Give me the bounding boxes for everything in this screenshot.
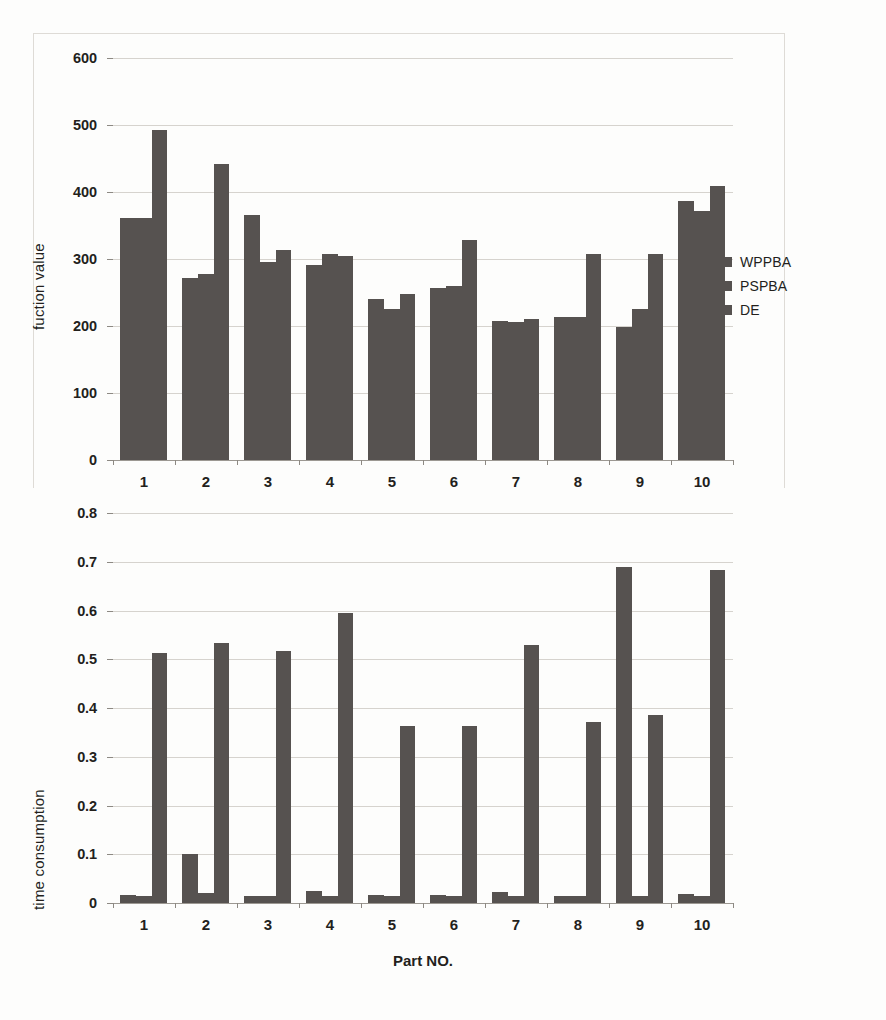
bar [260, 262, 276, 460]
bar [508, 322, 524, 460]
x-tick-label: 4 [305, 916, 355, 933]
gridline [113, 58, 733, 59]
gridline [113, 659, 733, 660]
y-tick-mark [107, 393, 113, 394]
y-tick-label: 500 [45, 117, 97, 133]
y-tick-mark [107, 125, 113, 126]
bar [710, 570, 726, 903]
bar [306, 891, 322, 903]
y-tick-label: 0.6 [45, 603, 97, 619]
bar [198, 893, 214, 903]
x-tick-mark [361, 460, 362, 465]
bar [400, 726, 416, 903]
bar [632, 309, 648, 460]
bar [120, 895, 136, 903]
x-tick-mark [609, 903, 610, 908]
bar [322, 896, 338, 903]
bar [462, 726, 478, 903]
x-tick-mark [733, 903, 734, 908]
gridline [113, 562, 733, 563]
x-tick-mark [609, 460, 610, 465]
x-tick-label: 1 [119, 916, 169, 933]
y-tick-mark [107, 326, 113, 327]
x-axis-title: Part NO. [113, 952, 733, 969]
gridline [113, 854, 733, 855]
x-tick-label: 5 [367, 473, 417, 490]
x-tick-mark [299, 903, 300, 908]
gridline [113, 259, 733, 260]
bar [368, 299, 384, 460]
y-tick-mark [107, 854, 113, 855]
bar [524, 645, 540, 903]
gridline [113, 125, 733, 126]
gridline [113, 806, 733, 807]
x-tick-mark [175, 903, 176, 908]
bar [508, 896, 524, 903]
bar [492, 892, 508, 903]
gridline [113, 757, 733, 758]
x-tick-label: 6 [429, 473, 479, 490]
gridline [113, 611, 733, 612]
legend-label: PSPBA [740, 278, 787, 294]
y-tick-mark [107, 806, 113, 807]
y-tick-label: 0.5 [45, 651, 97, 667]
bar [554, 317, 570, 460]
bar [260, 896, 276, 903]
y-tick-label: 200 [45, 318, 97, 334]
y-tick-mark [107, 513, 113, 514]
x-tick-label: 3 [243, 916, 293, 933]
x-tick-mark [175, 460, 176, 465]
bar [152, 653, 168, 903]
legend-swatch-icon [722, 281, 732, 291]
y-tick-label: 600 [45, 50, 97, 66]
y-tick-mark [107, 659, 113, 660]
y-tick-label: 0.1 [45, 846, 97, 862]
bar [136, 218, 152, 460]
bar [400, 294, 416, 460]
x-tick-mark [113, 903, 114, 908]
gridline [113, 708, 733, 709]
bar [152, 130, 168, 460]
bar [648, 254, 664, 460]
bar [446, 896, 462, 903]
x-tick-label: 10 [677, 916, 727, 933]
bar [244, 896, 260, 903]
bar [694, 896, 710, 903]
y-tick-label: 0.4 [45, 700, 97, 716]
bar [524, 319, 540, 460]
bar [492, 321, 508, 460]
legend-item[interactable]: DE [722, 298, 791, 322]
x-tick-mark [485, 460, 486, 465]
x-tick-mark [361, 903, 362, 908]
legend-label: DE [740, 302, 760, 318]
bar [338, 256, 354, 460]
x-tick-label: 2 [181, 473, 231, 490]
y-tick-label: 100 [45, 385, 97, 401]
gridline [113, 513, 733, 514]
legend-swatch-icon [722, 257, 732, 267]
gridline [113, 192, 733, 193]
bar [586, 254, 602, 460]
bar [710, 186, 726, 460]
y-tick-mark [107, 259, 113, 260]
bar [616, 567, 632, 903]
bar [136, 896, 152, 903]
x-tick-mark [113, 460, 114, 465]
bar [244, 215, 260, 460]
bar [276, 651, 292, 903]
y-tick-label: 0 [45, 452, 97, 468]
time-consumption-chart: time consumption 00.10.20.30.40.50.60.70… [0, 500, 886, 1020]
y-tick-mark [107, 611, 113, 612]
x-tick-mark [671, 903, 672, 908]
x-tick-mark [237, 903, 238, 908]
y-tick-mark [107, 757, 113, 758]
x-tick-mark [671, 460, 672, 465]
legend-swatch-icon [722, 305, 732, 315]
x-tick-mark [547, 460, 548, 465]
legend-item[interactable]: WPPBA [722, 250, 791, 274]
bar [648, 715, 664, 903]
y-tick-label: 0.8 [45, 505, 97, 521]
legend-item[interactable]: PSPBA [722, 274, 791, 298]
bar [430, 895, 446, 903]
x-tick-label: 4 [305, 473, 355, 490]
